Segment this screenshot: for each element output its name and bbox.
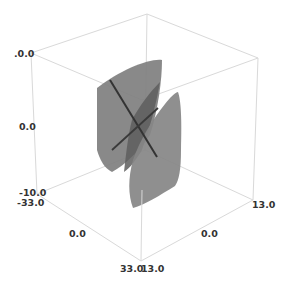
plot-canvas — [0, 0, 287, 282]
y-tick-mid: 0.0 — [201, 229, 218, 239]
x-tick-mid: 0.0 — [69, 229, 86, 239]
y-tick-left: 13.0 — [141, 264, 164, 274]
x-tick-right: 33.0 — [120, 264, 143, 274]
z-tick-mid: 0.0 — [19, 122, 36, 132]
surface — [97, 60, 181, 208]
y-tick-right: 13.0 — [252, 200, 275, 210]
z-tick-top: .0.0 — [14, 49, 34, 59]
x-tick-left: -33.0 — [17, 198, 44, 208]
